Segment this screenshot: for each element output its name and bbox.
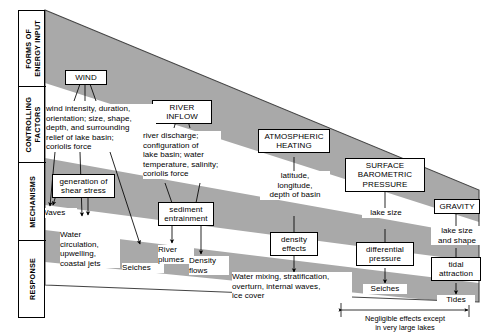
energy-input-wind[interactable]: WIND — [65, 70, 107, 85]
category-label: MECHANISMS — [28, 176, 37, 228]
controlling-factor-wind: wind intensity, duration, orientation; s… — [46, 104, 156, 152]
response-seiches-pressure: Seiches — [363, 284, 407, 294]
energy-input-gravity[interactable]: GRAVITY — [434, 199, 480, 214]
category-label: RESPONSE — [28, 258, 37, 300]
response-tides: Tides — [437, 295, 475, 305]
response-water-circulation: Water circulation, upwelling, coastal je… — [60, 230, 120, 268]
category-label: FORMS OF ENERGY INPUT — [24, 20, 42, 77]
controlling-factor-pressure: lake size — [362, 208, 410, 218]
category-controlling-factors: CONTROLLING FACTORS — [19, 87, 46, 163]
mechanism-density-effects[interactable]: density effects — [270, 232, 318, 256]
diagram-canvas: FORMS OF ENERGY INPUT CONTROLLING FACTOR… — [0, 0, 495, 335]
mechanism-shear-stress[interactable]: generation of shear stress — [52, 174, 115, 198]
negligible-effects-note: Negligible effects except in very large … — [330, 314, 480, 332]
response-seiches-wind: Seiches — [122, 263, 164, 273]
controlling-factor-heating: latitude, longitude, depth of basin — [260, 171, 330, 200]
category-mechanisms: MECHANISMS — [19, 163, 46, 241]
energy-input-atmospheric-heating[interactable]: ATMOSPHERIC HEATING — [258, 129, 330, 153]
category-label: CONTROLLING FACTORS — [24, 97, 42, 152]
controlling-factor-gravity: lake size and shape — [431, 226, 483, 245]
response-density-flows: Density flows — [189, 256, 229, 275]
mechanism-sediment-entrainment[interactable]: sediment entrainment — [158, 202, 214, 226]
category-forms-of-energy-input: FORMS OF ENERGY INPUT — [19, 11, 46, 87]
response-waves: Waves — [41, 208, 77, 218]
controlling-factor-river: river discharge; configuration of lake b… — [143, 131, 221, 179]
mechanism-differential-pressure[interactable]: differential pressure — [356, 242, 414, 266]
diagram-labels: WIND RIVER INFLOW ATMOSPHERIC HEATING SU… — [0, 0, 495, 335]
category-response: RESPONSE — [19, 241, 46, 317]
mechanism-tidal-attraction[interactable]: tidal attraction — [431, 257, 481, 281]
energy-input-surface-barometric-pressure[interactable]: SURFACE BAROMETRIC PRESSURE — [345, 158, 425, 192]
category-column: FORMS OF ENERGY INPUT CONTROLLING FACTOR… — [18, 10, 45, 318]
response-water-mixing: Water mixing, stratification, overturn, … — [232, 272, 352, 301]
energy-input-river-inflow[interactable]: RIVER INFLOW — [152, 100, 212, 124]
